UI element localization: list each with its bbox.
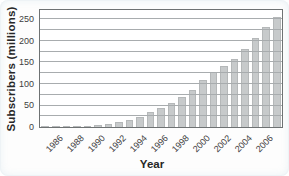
bar-1987 [63, 126, 71, 127]
bar-slot [145, 10, 156, 127]
y-tick-label: 50 [8, 100, 34, 110]
gridline [40, 61, 282, 62]
bar-slot [229, 10, 240, 127]
bar-1992 [115, 122, 123, 127]
bar-slot [198, 10, 209, 127]
bar-1991 [105, 124, 113, 127]
bar-2002 [220, 66, 228, 127]
bar-slot [187, 10, 198, 127]
bar-1988 [73, 126, 81, 127]
bar-1993 [126, 120, 134, 127]
gridline [40, 115, 282, 116]
bar-1986 [52, 126, 60, 127]
bar-slot [156, 10, 167, 127]
bar-slot [103, 10, 114, 127]
bar-slot [135, 10, 146, 127]
y-tick-label: 150 [8, 57, 34, 67]
bar-slot [240, 10, 251, 127]
gridline [40, 29, 282, 30]
bar-1989 [84, 126, 92, 128]
gridline [40, 40, 282, 41]
bar-slot [40, 10, 51, 127]
bar-slot [61, 10, 72, 127]
bar-1998 [178, 97, 186, 127]
bar-slot [72, 10, 83, 127]
bar-2006 [262, 27, 270, 127]
bar-slot [124, 10, 135, 127]
bar-slot [166, 10, 177, 127]
subscribers-bar-chart-figure: Subscribers (millions) 050100150200250 1… [0, 0, 289, 176]
bar-slot [261, 10, 272, 127]
bar-1990 [94, 125, 102, 127]
bar-slot [250, 10, 261, 127]
bar-1999 [189, 90, 197, 127]
bar-slot [208, 10, 219, 127]
x-axis-title: Year [30, 158, 274, 170]
bar-slot [82, 10, 93, 127]
bar-slot [93, 10, 104, 127]
gridline [40, 72, 282, 73]
bar-2001 [210, 72, 218, 127]
gridline [40, 51, 282, 52]
y-tick-label: 0 [8, 122, 34, 132]
plot-area [39, 9, 283, 128]
bar-slot [114, 10, 125, 127]
gridline [40, 94, 282, 95]
y-tick-label: 200 [8, 36, 34, 46]
bar-slot [271, 10, 282, 127]
bar-1994 [136, 117, 144, 127]
bar-1996 [157, 108, 165, 127]
gridline [40, 18, 282, 19]
bar-slot [51, 10, 62, 127]
gridline [40, 83, 282, 84]
y-tick-label: 250 [8, 14, 34, 24]
y-tick-label: 100 [8, 79, 34, 89]
gridline [40, 105, 282, 106]
bar-slot [219, 10, 230, 127]
bar-2000 [199, 80, 207, 127]
bar-1985 [41, 126, 49, 127]
bar-slot [177, 10, 188, 127]
